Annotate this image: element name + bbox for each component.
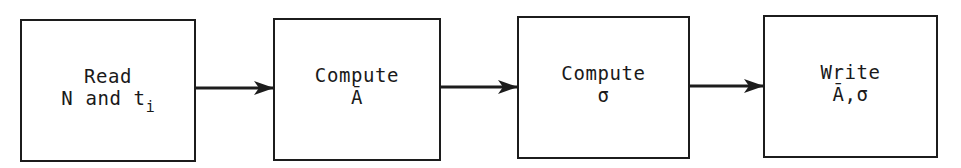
node-compute-mean-label-line2: Ā <box>275 86 439 108</box>
node-read-input: Read N and ti <box>20 19 196 162</box>
node-compute-mean-label-line1: Compute <box>275 64 439 86</box>
node-compute-sigma-label-line2: σ <box>519 84 688 106</box>
node-read-label-line1: Read <box>22 65 194 87</box>
node-read-label-subscript: i <box>146 98 155 116</box>
node-write-label-line2: Ā,σ <box>765 83 936 105</box>
node-compute-sigma-label-line1: Compute <box>519 62 688 84</box>
node-compute-mean: Compute Ā <box>273 18 441 161</box>
node-read-label-line2: N and ti <box>22 87 194 111</box>
flowchart-canvas: Read N and ti Compute Ā Compute σ Write … <box>0 0 961 168</box>
node-compute-sigma: Compute σ <box>517 16 690 159</box>
node-write-output: Write Ā,σ <box>763 15 938 158</box>
node-write-label-line1: Write <box>765 61 936 83</box>
node-read-label-main: N and t <box>61 87 145 109</box>
